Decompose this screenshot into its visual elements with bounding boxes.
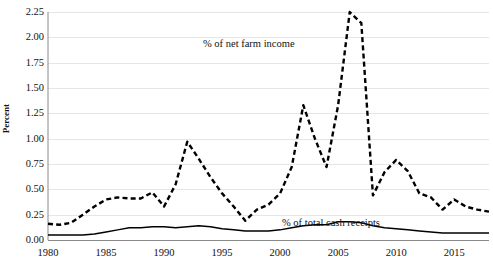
series-annotation-total-cash-receipts: % of total cash receipts: [282, 217, 380, 228]
chart-container: Percent 0.000.250.500.751.001.251.501.75…: [0, 0, 493, 271]
series-annotation-net-farm-income: % of net farm income: [203, 38, 295, 49]
series-line-of-total-cash-receipts: [48, 222, 489, 235]
